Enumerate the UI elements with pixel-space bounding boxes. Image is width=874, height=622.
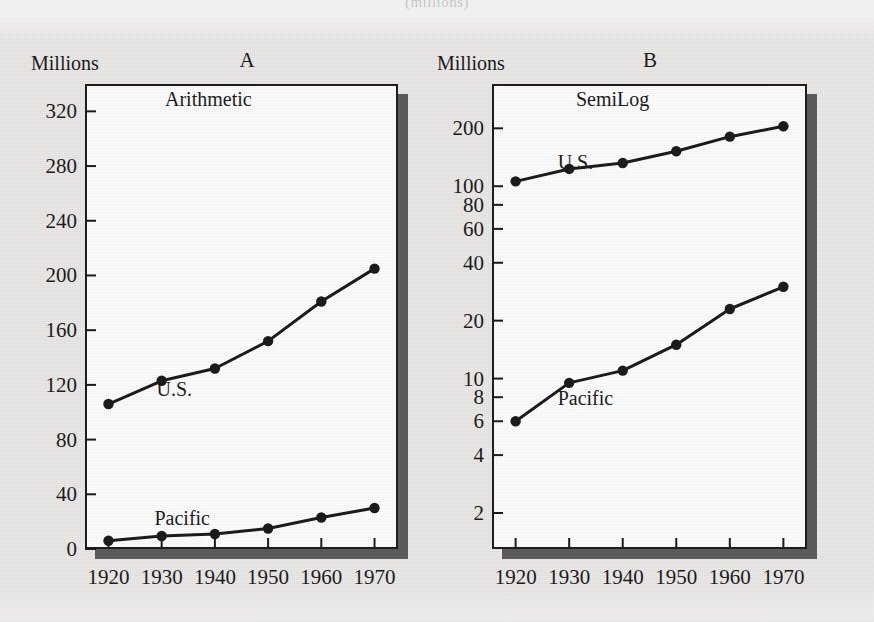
series-label-pacific: Pacific: [154, 507, 210, 530]
data-point-marker: [510, 416, 520, 426]
data-point-marker: [618, 158, 628, 168]
series-line-us: [516, 126, 784, 181]
data-point-marker: [671, 146, 681, 156]
panel-b-plot-canvas: [0, 0, 874, 622]
series-label-us: U.S.: [558, 151, 594, 174]
series-line-pacific: [516, 287, 784, 421]
series-label-pacific: Pacific: [558, 387, 614, 410]
data-point-marker: [725, 131, 735, 141]
series-label-us: U.S.: [156, 378, 192, 401]
data-point-marker: [618, 365, 628, 375]
data-point-marker: [778, 121, 788, 131]
data-point-marker: [725, 304, 735, 314]
data-point-marker: [671, 340, 681, 350]
data-point-marker: [510, 176, 520, 186]
data-point-marker: [778, 282, 788, 292]
